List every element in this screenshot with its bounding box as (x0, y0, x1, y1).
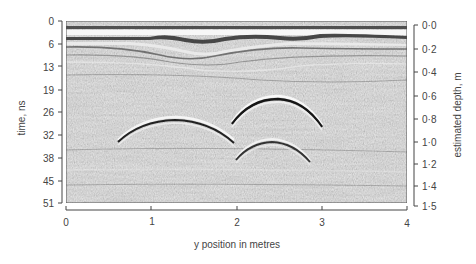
left-tick-label: 45 (43, 176, 55, 187)
right-tick-label: 0·0 (422, 20, 437, 31)
bottom-tick-label: 3 (319, 217, 325, 228)
right-tick-label: 0·4 (422, 67, 437, 78)
right-tick-label: 1·0 (422, 137, 437, 148)
right-tick-label: 1·2 (422, 159, 437, 170)
right-axis-title: estimated depth, m (452, 72, 463, 157)
right-tick-label: 0·8 (422, 114, 437, 125)
right-tick-label: 1·4 (422, 181, 437, 192)
left-axis: 0 6 13 19 26 32 38 45 51 time, ns (16, 16, 62, 209)
left-tick-label: 13 (43, 62, 55, 73)
right-axis: 0·0 0·2 0·4 0·6 0·8 1·0 1·2 1·4 1·5 esti… (414, 20, 463, 212)
bottom-tick-label: 0 (63, 217, 69, 228)
bottom-tick-label: 4 (404, 218, 410, 229)
bottom-axis-ticks (66, 206, 407, 210)
left-tick-label: 19 (43, 85, 55, 96)
left-tick-label: 32 (43, 130, 55, 141)
left-axis-title: time, ns (16, 100, 27, 135)
left-tick-label: 26 (43, 107, 55, 118)
radargram-figure: 0 6 13 19 26 32 38 45 51 time, ns 0·0 0·… (0, 0, 476, 264)
left-tick-label: 6 (48, 39, 54, 50)
right-tick-label: 1·5 (422, 201, 437, 212)
left-tick-label: 51 (43, 198, 55, 209)
left-tick-label: 38 (43, 153, 55, 164)
right-tick-label: 0·6 (422, 91, 437, 102)
bottom-axis: 0 1 2 3 4 y position in metres (63, 206, 410, 250)
radargram-image (66, 21, 407, 203)
left-axis-ticks (58, 21, 62, 203)
bottom-tick-label: 2 (234, 217, 240, 228)
bottom-tick-label: 1 (149, 216, 155, 227)
right-tick-label: 0·2 (422, 44, 437, 55)
right-axis-ticks (414, 25, 418, 206)
bottom-axis-title: y position in metres (194, 239, 280, 250)
left-tick-label: 0 (48, 16, 54, 27)
